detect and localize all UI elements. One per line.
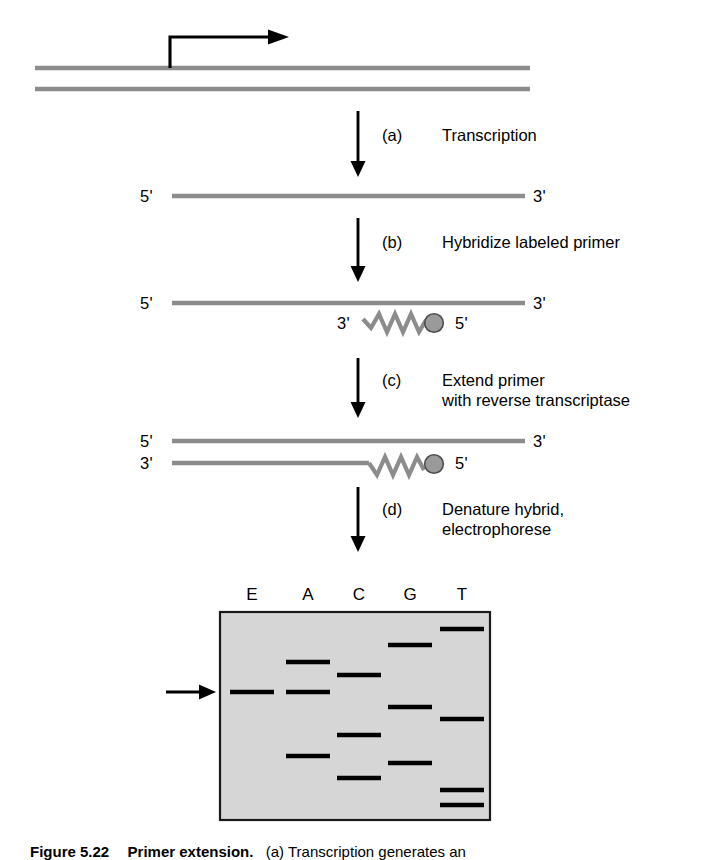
figure-caption-number: Figure 5.22: [30, 843, 109, 860]
step-b-text: Hybridize labeled primer: [442, 233, 620, 252]
primer-3-prime: 3': [337, 314, 350, 333]
step-c-tag: (c): [382, 371, 401, 390]
figure-caption-body: (a) Transcription generates an: [266, 843, 466, 860]
transcription-start-arrow: [170, 30, 289, 69]
labeled-primer: [363, 314, 443, 333]
gel-lane-label-A: A: [294, 585, 322, 605]
step-c-text-line2: with reverse transcriptase: [442, 391, 630, 410]
primer-label-tag-icon: [425, 314, 444, 333]
extended-rna-5-prime: 5': [140, 432, 153, 451]
step-d-text-line1: Denature hybrid,: [442, 500, 564, 519]
gel-lane-label-G: G: [396, 585, 424, 605]
hybrid-rna-3-prime: 3': [533, 294, 546, 313]
step-arrow-d: [351, 487, 366, 552]
hybrid-rna-5-prime: 5': [140, 294, 153, 313]
extended-cdna-strand: [172, 455, 443, 475]
primer-5-prime: 5': [455, 314, 468, 333]
extended-cdna-5-prime: 5': [455, 454, 468, 473]
step-b-tag: (b): [382, 233, 402, 252]
step-a-text: Transcription: [442, 126, 537, 145]
double-stranded-dna: [35, 68, 530, 89]
step-arrow-a: [351, 111, 366, 177]
step-c-text-line1: Extend primer: [442, 371, 545, 390]
gel-lane-label-T: T: [448, 585, 476, 605]
gel-lane-label-E: E: [238, 585, 266, 605]
gel-lane-label-C: C: [345, 585, 373, 605]
figure-caption-title: Primer extension.: [128, 843, 254, 860]
step-d-text-line2: electrophorese: [442, 520, 551, 539]
step-a-tag: (a): [382, 126, 402, 145]
rna-transcript-5-prime: 5': [140, 187, 153, 206]
step-arrow-c: [351, 358, 366, 418]
extended-primer-label-tag-icon: [425, 455, 444, 474]
step-arrow-b: [351, 218, 366, 282]
figure-caption: Figure 5.22 Primer extension. (a) Transc…: [30, 843, 466, 860]
sequencing-gel[interactable]: [220, 612, 490, 820]
extended-cdna-3-prime: 3': [140, 454, 153, 473]
step-d-tag: (d): [382, 500, 402, 519]
extended-rna-3-prime: 3': [533, 432, 546, 451]
extension-product-pointer: [166, 685, 216, 700]
rna-transcript-3-prime: 3': [533, 187, 546, 206]
